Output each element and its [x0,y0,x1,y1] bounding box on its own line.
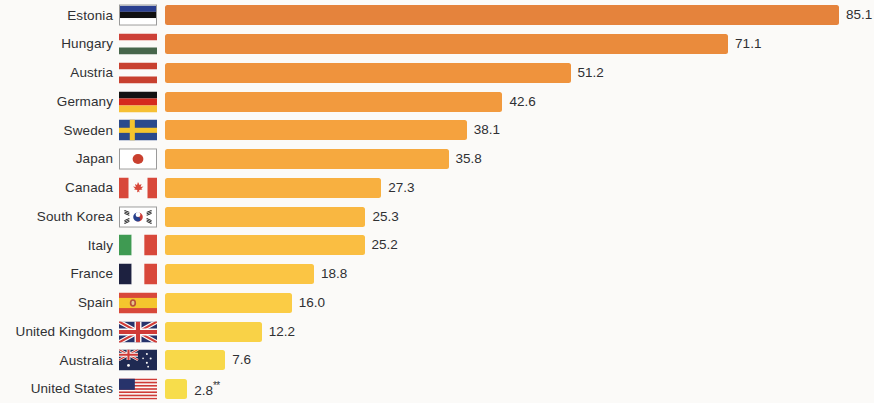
chart-row: Austria51.2 [0,59,874,88]
chart-row: South Korea25.3 [0,202,874,231]
bar [165,92,502,112]
bar [165,178,381,198]
bar-value-label: 2.8** [194,381,220,397]
bar [165,120,467,140]
chart-row: Australia7.6 [0,346,874,375]
flag-south-korea-icon [119,206,157,227]
bar-value-number: 51.2 [578,65,604,80]
bar-value-label: 7.6 [232,354,251,368]
chart-row: Japan35.8 [0,145,874,174]
bar [165,322,262,342]
chart-row: France18.8 [0,260,874,289]
bar [165,379,187,399]
flag-hungary-icon [119,34,157,55]
bar [165,34,728,54]
country-label: Australia [0,354,113,368]
flag-estonia-icon [119,5,157,26]
country-label: Canada [0,181,113,195]
flag-sweden-icon [119,120,157,141]
bar [165,149,449,169]
country-label: United Kingdom [0,325,113,339]
country-label: Germany [0,95,113,109]
country-label: France [0,267,113,281]
bar-value-number: 7.6 [232,353,251,368]
bar-value-number: 16.0 [299,295,325,310]
bar-value-label: 25.2 [372,239,398,253]
bar [165,63,571,83]
bar-value-label: 27.3 [388,181,414,195]
country-label: Austria [0,66,113,80]
bar-value-label: 71.1 [735,37,761,51]
bar-value-label: 85.1 [846,9,872,23]
country-label: Sweden [0,124,113,138]
chart-row: Hungary71.1 [0,30,874,59]
flag-australia-icon [119,350,157,371]
bar-value-number: 85.1 [846,8,872,23]
bar [165,5,839,25]
chart-row: Spain16.0 [0,289,874,318]
bar-value-number: 2.8 [194,383,213,398]
bar-chart: Estonia85.1Hungary71.1Austria51.2Germany… [0,0,874,403]
country-label: Japan [0,152,113,166]
flag-spain-icon [119,292,157,313]
country-label: Estonia [0,9,113,23]
flag-france-icon [119,264,157,285]
bar-value-label: 51.2 [578,66,604,80]
bar-value-number: 27.3 [388,180,414,195]
bar-value-number: 18.8 [321,266,347,281]
country-label: Hungary [0,37,113,51]
chart-row: Sweden38.1 [0,116,874,145]
chart-row: Germany42.6 [0,87,874,116]
country-label: Spain [0,296,113,310]
flag-austria-icon [119,62,157,83]
bar-value-label: 25.3 [372,210,398,224]
bar [165,293,292,313]
flag-united-states-icon [119,379,157,400]
flag-canada-icon [119,177,157,198]
flag-japan-icon [119,149,157,170]
bar-value-number: 38.1 [474,123,500,138]
bar [165,235,365,255]
flag-germany-icon [119,91,157,112]
country-label: United States [0,382,113,396]
bar-value-number: 12.2 [269,324,295,339]
bar-value-label: 42.6 [509,95,535,109]
footnote-marker: ** [213,380,220,391]
bar [165,350,225,370]
bar-value-number: 42.6 [509,94,535,109]
bar-value-number: 71.1 [735,36,761,51]
bar-value-label: 35.8 [456,152,482,166]
chart-row: United Kingdom12.2 [0,317,874,346]
bar-value-number: 25.3 [372,209,398,224]
country-label: Italy [0,239,113,253]
country-label: South Korea [0,210,113,224]
chart-row: United States2.8** [0,375,874,403]
flag-united-kingdom-icon [119,321,157,342]
bar-value-number: 35.8 [456,151,482,166]
bar [165,264,314,284]
chart-row: Estonia85.1 [0,1,874,30]
flag-italy-icon [119,235,157,256]
bar-value-label: 18.8 [321,267,347,281]
bar [165,207,365,227]
chart-row: Canada27.3 [0,174,874,203]
bar-value-label: 38.1 [474,124,500,138]
bar-value-label: 12.2 [269,325,295,339]
chart-row: Italy25.2 [0,231,874,260]
bar-value-number: 25.2 [372,238,398,253]
bar-value-label: 16.0 [299,296,325,310]
